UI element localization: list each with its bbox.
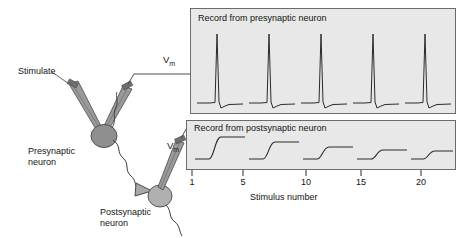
- axis-tick-label-10: 10: [296, 177, 316, 187]
- presynaptic-spike-1: [197, 34, 243, 108]
- stimulate-label: Stimulate: [18, 66, 56, 76]
- axis-tick-label-1: 1: [182, 177, 202, 187]
- presynaptic-neuron-label: Presynaptic neuron: [28, 146, 75, 168]
- presynaptic-record-panel: Record from presynaptic neuron: [190, 8, 456, 114]
- postsynaptic-epsp-2: [249, 142, 299, 159]
- stimulating-electrode: [67, 79, 102, 131]
- presynaptic-spike-3: [301, 34, 347, 108]
- presynaptic-trace-plot: [191, 9, 455, 113]
- postsynaptic-record-panel: Record from postsynaptic neuron: [186, 120, 456, 170]
- postsynaptic-epsp-1: [195, 137, 245, 159]
- presynaptic-recording-wire: [128, 74, 190, 84]
- axis-tick-label-5: 5: [233, 177, 253, 187]
- vm-label-presynaptic-subscript: m: [169, 60, 175, 67]
- presynaptic-spike-4: [353, 34, 399, 108]
- postsynaptic-neuron-label-line1: Postsynaptic: [100, 207, 151, 218]
- vm-label-postsynaptic: Vm: [167, 140, 179, 153]
- presynaptic-axon: [113, 140, 138, 188]
- presynaptic-spike-2: [249, 34, 295, 108]
- postsynaptic-epsp-5: [411, 151, 453, 159]
- presynaptic-recording-electrode: [103, 81, 133, 131]
- presynaptic-neuron-label-line2: neuron: [28, 157, 75, 168]
- stimulus-number-axis-label: Stimulus number: [250, 192, 318, 202]
- vm-label-presynaptic: Vm: [163, 54, 175, 67]
- neuron-synaptic-depression-figure: Stimulate Presynaptic neuron Postsynapti…: [0, 0, 462, 238]
- vm-label-postsynaptic-subscript: m: [173, 146, 179, 153]
- axis-tick-label-15: 15: [351, 177, 371, 187]
- postsynaptic-neuron-label-line2: neuron: [100, 218, 151, 229]
- postsynaptic-epsp-4: [357, 150, 407, 159]
- presynaptic-soma: [91, 125, 117, 148]
- axis-tick-label-20: 20: [411, 177, 431, 187]
- postsynaptic-trace-plot: [187, 121, 455, 169]
- postsynaptic-neuron-label: Postsynaptic neuron: [100, 207, 151, 229]
- presynaptic-spike-5: [405, 34, 451, 108]
- presynaptic-neuron-label-line1: Presynaptic: [28, 146, 75, 157]
- postsynaptic-axon: [166, 205, 182, 236]
- postsynaptic-epsp-3: [303, 147, 353, 159]
